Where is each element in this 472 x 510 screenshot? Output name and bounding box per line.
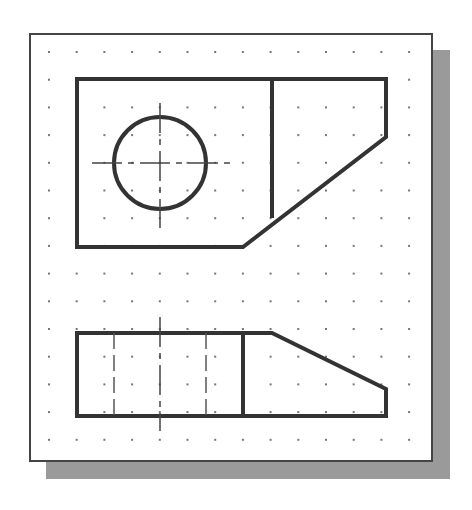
grid-dot	[353, 273, 355, 275]
grid-dot	[353, 106, 355, 108]
grid-dot	[242, 300, 244, 302]
grid-dot	[48, 300, 50, 302]
grid-dot	[214, 383, 216, 385]
grid-dot	[325, 300, 327, 302]
grid-dot	[380, 245, 382, 247]
grid-dot	[103, 383, 105, 385]
grid-dot	[408, 328, 410, 330]
grid-dot	[131, 51, 133, 53]
grid-dot	[103, 217, 105, 219]
grid-dot	[103, 356, 105, 358]
grid-dot	[214, 134, 216, 136]
grid-dot	[48, 383, 50, 385]
grid-dot	[48, 356, 50, 358]
grid-dot	[380, 356, 382, 358]
grid-dot	[131, 106, 133, 108]
grid-dot	[380, 190, 382, 192]
grid-dot	[242, 328, 244, 330]
grid-dot	[76, 273, 78, 275]
grid-dot	[76, 328, 78, 330]
front-view	[77, 317, 386, 431]
grid-dot	[242, 217, 244, 219]
grid-dot	[408, 411, 410, 413]
grid-dot	[187, 190, 189, 192]
grid-dot	[380, 134, 382, 136]
grid-dot	[159, 439, 161, 441]
grid-dot	[408, 273, 410, 275]
grid-dot	[48, 217, 50, 219]
grid-dot	[325, 273, 327, 275]
grid-dot	[103, 134, 105, 136]
grid-dot	[242, 273, 244, 275]
grid-dot	[380, 217, 382, 219]
grid-dot	[187, 217, 189, 219]
grid-dot	[297, 190, 299, 192]
grid-dot	[214, 439, 216, 441]
grid-dot	[380, 273, 382, 275]
grid-dot	[380, 106, 382, 108]
grid-dot	[187, 356, 189, 358]
grid-dot	[325, 383, 327, 385]
grid-dot	[187, 300, 189, 302]
grid-dot	[131, 356, 133, 358]
grid-dot	[103, 328, 105, 330]
grid-dot	[131, 383, 133, 385]
top-view-outline	[77, 79, 386, 247]
grid-dot	[48, 134, 50, 136]
grid-dot	[214, 300, 216, 302]
grid-dot	[214, 411, 216, 413]
grid-dot	[380, 300, 382, 302]
grid-dot	[214, 106, 216, 108]
grid-dot	[297, 328, 299, 330]
grid-dot	[76, 51, 78, 53]
grid-dot	[325, 190, 327, 192]
grid-dot	[159, 273, 161, 275]
grid-dot	[242, 190, 244, 192]
grid-dot	[297, 106, 299, 108]
grid-dot	[353, 245, 355, 247]
grid-dot	[408, 383, 410, 385]
grid-dot	[408, 439, 410, 441]
grid-dot	[103, 51, 105, 53]
grid-dot	[131, 300, 133, 302]
grid-dot	[159, 134, 161, 136]
grid-dot	[353, 217, 355, 219]
grid-dot	[187, 134, 189, 136]
grid-dot	[48, 411, 50, 413]
top-view	[77, 79, 386, 247]
grid-dot	[297, 356, 299, 358]
grid-dot	[325, 51, 327, 53]
grid-dot	[353, 134, 355, 136]
grid-dot	[48, 190, 50, 192]
grid-dot	[325, 134, 327, 136]
grid-dot	[187, 383, 189, 385]
cad-drawing	[0, 0, 472, 510]
grid-dot	[380, 411, 382, 413]
grid-dot	[297, 134, 299, 136]
grid-dot	[103, 300, 105, 302]
grid-dot	[380, 162, 382, 164]
grid-dot	[187, 328, 189, 330]
grid-dot	[131, 273, 133, 275]
grid-dot	[187, 106, 189, 108]
grid-dot	[76, 439, 78, 441]
grid-dot	[131, 217, 133, 219]
grid-dot	[214, 273, 216, 275]
grid-dot	[270, 51, 272, 53]
grid-dot	[187, 411, 189, 413]
grid-dot	[270, 273, 272, 275]
grid-dot	[325, 439, 327, 441]
grid-dot	[297, 300, 299, 302]
grid-dot	[214, 51, 216, 53]
grid-dot	[270, 356, 272, 358]
grid-dot	[159, 300, 161, 302]
grid-dot	[408, 245, 410, 247]
grid-dot	[408, 51, 410, 53]
grid-dot	[131, 190, 133, 192]
grid-dot	[408, 134, 410, 136]
grid-dot	[187, 51, 189, 53]
grid-dot	[76, 300, 78, 302]
grid-dot	[325, 245, 327, 247]
grid-dot	[353, 328, 355, 330]
grid-dot	[242, 439, 244, 441]
